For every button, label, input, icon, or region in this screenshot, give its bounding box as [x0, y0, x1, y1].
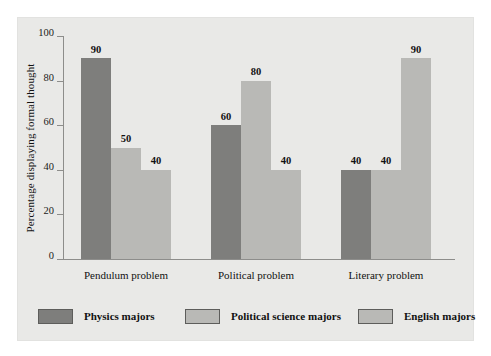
plot-area: 0 20 40 60 80 100 Percentage displaying …: [63, 36, 455, 260]
category-label-political: Political problem: [218, 269, 294, 281]
legend-item-english-majors[interactable]: English majors: [358, 305, 475, 327]
y-axis-title: Percentage displaying formal thought: [24, 64, 36, 233]
bar-political-english[interactable]: 40: [271, 170, 301, 259]
bar-pendulum-polisci[interactable]: 50: [111, 148, 141, 260]
chart-panel: 0 20 40 60 80 100 Percentage displaying …: [18, 18, 473, 340]
legend-label-physics: Physics majors: [84, 310, 155, 322]
y-tick-label-80: 80: [44, 73, 55, 84]
bar-pendulum-physics[interactable]: 90: [81, 58, 111, 259]
bar-value-political-physics: 60: [221, 112, 232, 123]
category-label-pendulum: Pendulum problem: [84, 269, 168, 281]
bar-pendulum-english[interactable]: 40: [141, 170, 171, 259]
y-tick-label-40: 40: [44, 162, 55, 173]
bar-political-polisci[interactable]: 80: [241, 81, 271, 259]
bar-value-literary-physics: 40: [351, 156, 362, 167]
y-tick-label-100: 100: [38, 28, 54, 39]
bar-value-pendulum-physics: 90: [91, 45, 102, 56]
bar-value-literary-polisci: 40: [381, 156, 392, 167]
legend-swatch-icon-english: [358, 309, 393, 324]
bar-group-literary: 40 40 90: [341, 36, 431, 259]
legend-swatch-icon-physics: [38, 309, 73, 324]
bar-group-pendulum: 90 50 40: [81, 36, 171, 259]
bar-value-pendulum-polisci: 50: [121, 134, 132, 145]
bar-literary-english[interactable]: 90: [401, 58, 431, 259]
bar-political-physics[interactable]: 60: [211, 125, 241, 259]
y-tick-label-0: 0: [49, 251, 54, 262]
category-label-literary: Literary problem: [349, 269, 424, 281]
bar-group-political: 60 80 40: [211, 36, 301, 259]
legend-item-physics-majors[interactable]: Physics majors: [38, 305, 155, 327]
legend-label-english: English majors: [404, 310, 475, 322]
bar-literary-polisci[interactable]: 40: [371, 170, 401, 259]
bar-value-political-polisci: 80: [251, 67, 262, 78]
legend-label-polisci: Political science majors: [231, 310, 341, 322]
x-axis-line: [63, 259, 455, 260]
legend-swatch-icon-polisci: [185, 309, 220, 324]
bar-value-political-english: 40: [281, 156, 292, 167]
bar-value-literary-english: 90: [411, 45, 422, 56]
bar-value-pendulum-english: 40: [151, 156, 162, 167]
legend-item-political-science-majors[interactable]: Political science majors: [185, 305, 341, 327]
y-tick-label-60: 60: [44, 117, 55, 128]
y-axis-line: [63, 36, 64, 260]
y-tick-label-20: 20: [44, 206, 55, 217]
legend: Physics majors Political science majors …: [18, 305, 473, 331]
bar-literary-physics[interactable]: 40: [341, 170, 371, 259]
